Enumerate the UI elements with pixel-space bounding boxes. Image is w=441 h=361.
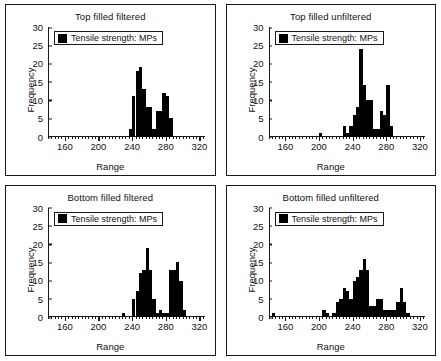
x-minor-tick: [366, 137, 367, 139]
x-minor-tick: [346, 317, 347, 319]
x-minor-tick: [183, 317, 184, 319]
y-tick-10: 10: [253, 275, 269, 286]
x-minor-tick: [193, 137, 194, 139]
x-minor-tick: [363, 137, 364, 139]
x-minor-tick: [115, 317, 116, 319]
x-minor-tick: [139, 317, 140, 319]
x-minor-tick: [396, 317, 397, 319]
y-tick-0: 0: [258, 131, 268, 142]
x-tick-label-160: 160: [277, 141, 293, 152]
x-minor-tick: [176, 317, 177, 319]
legend-swatch-icon: [279, 34, 288, 43]
x-minor-tick: [112, 317, 113, 319]
x-minor-tick: [78, 317, 79, 319]
x-minor-tick: [162, 317, 163, 319]
legend-label: Tensile strength: MPs: [71, 33, 157, 43]
x-minor-tick: [58, 317, 59, 319]
x-tick-label-200: 200: [91, 141, 107, 152]
x-minor-tick: [139, 137, 140, 139]
x-minor-tick: [393, 317, 394, 319]
x-minor-tick: [85, 137, 86, 139]
histogram-bar: [406, 313, 409, 317]
legend-label: Tensile strength: MPs: [292, 33, 378, 43]
x-minor-tick: [48, 137, 49, 139]
histogram-bar: [183, 310, 186, 317]
x-minor-tick: [105, 317, 106, 319]
x-minor-tick: [413, 137, 414, 139]
x-tick-label-200: 200: [311, 141, 327, 152]
x-minor-tick: [322, 317, 323, 319]
x-minor-tick: [269, 137, 270, 139]
x-minor-tick: [129, 137, 130, 139]
x-minor-tick: [400, 317, 401, 319]
x-minor-tick: [196, 317, 197, 319]
histogram-figure: Top filled filtered Frequency Range 0510…: [0, 0, 441, 361]
x-minor-tick: [269, 317, 270, 319]
x-minor-tick: [312, 137, 313, 139]
x-minor-tick: [295, 317, 296, 319]
x-minor-tick: [336, 317, 337, 319]
x-minor-tick: [423, 317, 424, 319]
x-tick-label-280: 280: [378, 141, 394, 152]
histogram-bar: [390, 126, 393, 137]
x-minor-tick: [95, 317, 96, 319]
x-minor-tick: [61, 137, 62, 139]
x-minor-tick: [383, 317, 384, 319]
x-minor-tick: [396, 137, 397, 139]
x-minor-tick: [343, 317, 344, 319]
x-minor-tick: [75, 317, 76, 319]
x-minor-tick: [366, 317, 367, 319]
x-minor-tick: [92, 317, 93, 319]
panel-frame: Bottom filled filtered Frequency Range 0…: [5, 185, 216, 357]
x-minor-tick: [390, 317, 391, 319]
x-minor-tick: [309, 137, 310, 139]
x-minor-tick: [339, 137, 340, 139]
x-minor-tick: [332, 137, 333, 139]
x-minor-tick: [136, 137, 137, 139]
plot-area: Frequency Range 051015202530160200240280…: [6, 5, 215, 175]
histogram-bar: [272, 313, 275, 317]
x-minor-tick: [129, 317, 130, 319]
x-tick-label-240: 240: [124, 141, 140, 152]
chart-legend: Tensile strength: MPs: [275, 212, 384, 226]
x-minor-tick: [282, 137, 283, 139]
y-tick-5: 5: [258, 113, 268, 124]
x-minor-tick: [55, 317, 56, 319]
x-minor-tick: [159, 317, 160, 319]
x-minor-tick: [336, 137, 337, 139]
x-minor-tick: [82, 317, 83, 319]
x-minor-tick: [299, 137, 300, 139]
x-minor-tick: [186, 317, 187, 319]
x-minor-tick: [417, 317, 418, 319]
x-minor-tick: [105, 137, 106, 139]
x-minor-tick: [302, 137, 303, 139]
x-minor-tick: [417, 137, 418, 139]
x-tick-label-240: 240: [345, 141, 361, 152]
x-minor-tick: [61, 317, 62, 319]
x-minor-tick: [299, 317, 300, 319]
x-minor-tick: [142, 137, 143, 139]
x-tick-label-320: 320: [192, 141, 208, 152]
x-minor-tick: [149, 137, 150, 139]
x-minor-tick: [369, 137, 370, 139]
histogram-bar: [169, 118, 172, 136]
x-minor-tick: [112, 137, 113, 139]
chart-legend: Tensile strength: MPs: [275, 31, 384, 45]
y-tick-30: 30: [253, 22, 269, 33]
x-minor-tick: [406, 317, 407, 319]
x-tick-label-280: 280: [158, 321, 174, 332]
x-axis-label: Range: [6, 161, 215, 172]
chart-legend: Tensile strength: MPs: [54, 212, 163, 226]
x-minor-tick: [380, 317, 381, 319]
panel-bottom-filled-filtered: Bottom filled filtered Frequency Range 0…: [0, 181, 221, 361]
x-minor-tick: [295, 137, 296, 139]
x-minor-tick: [75, 137, 76, 139]
x-minor-tick: [55, 137, 56, 139]
x-minor-tick: [406, 137, 407, 139]
x-minor-tick: [373, 317, 374, 319]
plot-area: Frequency Range 051015202530160200240280…: [227, 5, 436, 175]
y-tick-15: 15: [253, 76, 269, 87]
axes: 051015202530160200240280320 Tensile stre…: [269, 208, 426, 318]
x-axis-label: Range: [227, 341, 436, 352]
x-minor-tick: [282, 317, 283, 319]
